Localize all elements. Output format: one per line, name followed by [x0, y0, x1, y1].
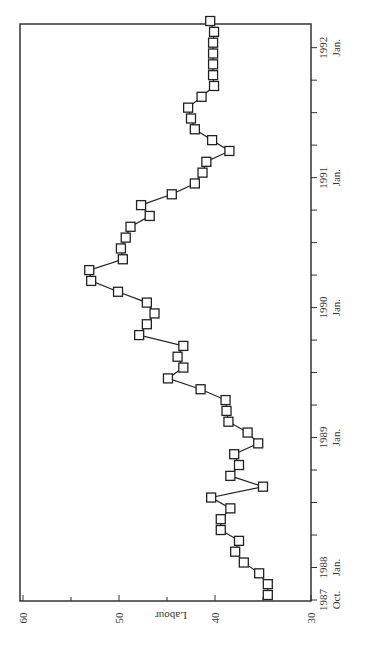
- data-point-marker: [187, 114, 196, 123]
- data-point-marker: [263, 580, 272, 589]
- x-tick-year: 1990: [317, 296, 329, 319]
- x-tick-year: 1987: [317, 589, 329, 612]
- axis-labels: 30405060Labour1987Oct.1988Jan.1989Jan.19…: [17, 37, 342, 624]
- data-point-marker: [126, 222, 135, 231]
- data-point-marker: [224, 417, 233, 426]
- x-tick-month: Jan.: [330, 559, 342, 577]
- data-point-marker: [179, 363, 188, 372]
- data-point-marker: [216, 526, 225, 535]
- data-point-marker: [231, 547, 240, 556]
- x-tick-year: 1989: [317, 426, 329, 449]
- data-point-marker: [209, 49, 218, 58]
- data-point-marker: [118, 255, 127, 264]
- data-point-marker: [210, 81, 219, 90]
- data-point-marker: [173, 352, 182, 361]
- data-point-marker: [184, 103, 193, 112]
- x-tick-month: Jan.: [330, 169, 342, 187]
- x-tick-year: 1992: [317, 37, 329, 59]
- x-tick-month: Jan.: [330, 429, 342, 447]
- data-point-marker: [225, 146, 234, 155]
- data-point-marker: [206, 17, 215, 26]
- data-point-marker: [230, 450, 239, 459]
- data-point-marker: [235, 536, 244, 545]
- data-point-marker: [145, 211, 154, 220]
- data-point-marker: [210, 27, 219, 36]
- data-point-marker: [150, 309, 159, 318]
- plot-frame: [20, 24, 311, 601]
- x-tick-month: Oct.: [330, 590, 342, 609]
- data-point-marker: [137, 201, 146, 210]
- data-point-marker: [243, 428, 252, 437]
- data-point-marker: [179, 341, 188, 350]
- data-point-marker: [87, 276, 96, 285]
- data-point-marker: [114, 287, 123, 296]
- data-point-marker: [163, 374, 172, 383]
- x-tick-month: Jan.: [330, 39, 342, 57]
- x-tick-month: Jan.: [330, 299, 342, 317]
- data-point-marker: [85, 266, 94, 275]
- data-point-marker: [196, 385, 205, 394]
- data-point-marker: [255, 569, 264, 578]
- data-point-marker: [221, 396, 230, 405]
- data-point-marker: [198, 168, 207, 177]
- data-point-marker: [239, 558, 248, 567]
- data-point-marker: [167, 190, 176, 199]
- x-tick-year: 1991: [317, 167, 329, 189]
- data-point-marker: [222, 406, 231, 415]
- data-point-marker: [226, 471, 235, 480]
- x-tick-year: 1988: [317, 556, 329, 579]
- data-point-marker: [197, 92, 206, 101]
- data-point-marker: [116, 244, 125, 253]
- data-point-marker: [121, 233, 130, 242]
- data-point-marker: [209, 38, 218, 47]
- data-point-marker: [226, 504, 235, 513]
- data-line: [89, 21, 268, 595]
- data-point-marker: [263, 591, 272, 600]
- data-point-marker: [259, 482, 268, 491]
- y-tick-label: 40: [209, 612, 221, 624]
- data-point-marker: [190, 179, 199, 188]
- y-tick-label: 60: [17, 612, 29, 624]
- data-markers: [85, 17, 273, 600]
- line-chart: 30405060Labour1987Oct.1988Jan.1989Jan.19…: [0, 0, 367, 652]
- data-point-marker: [207, 493, 216, 502]
- data-point-marker: [142, 320, 151, 329]
- data-point-marker: [135, 331, 144, 340]
- axis-ticks: [23, 48, 317, 601]
- data-point-marker: [235, 461, 244, 470]
- data-point-marker: [208, 136, 217, 145]
- data-point-marker: [190, 125, 199, 134]
- data-point-marker: [209, 71, 218, 80]
- y-tick-label: 50: [113, 612, 125, 624]
- data-point-marker: [209, 60, 218, 69]
- data-point-marker: [142, 298, 151, 307]
- data-point-marker: [254, 439, 263, 448]
- y-tick-label: 30: [305, 612, 317, 624]
- data-point-marker: [202, 157, 211, 166]
- data-point-marker: [216, 515, 225, 524]
- y-axis-label: Labour: [155, 610, 187, 622]
